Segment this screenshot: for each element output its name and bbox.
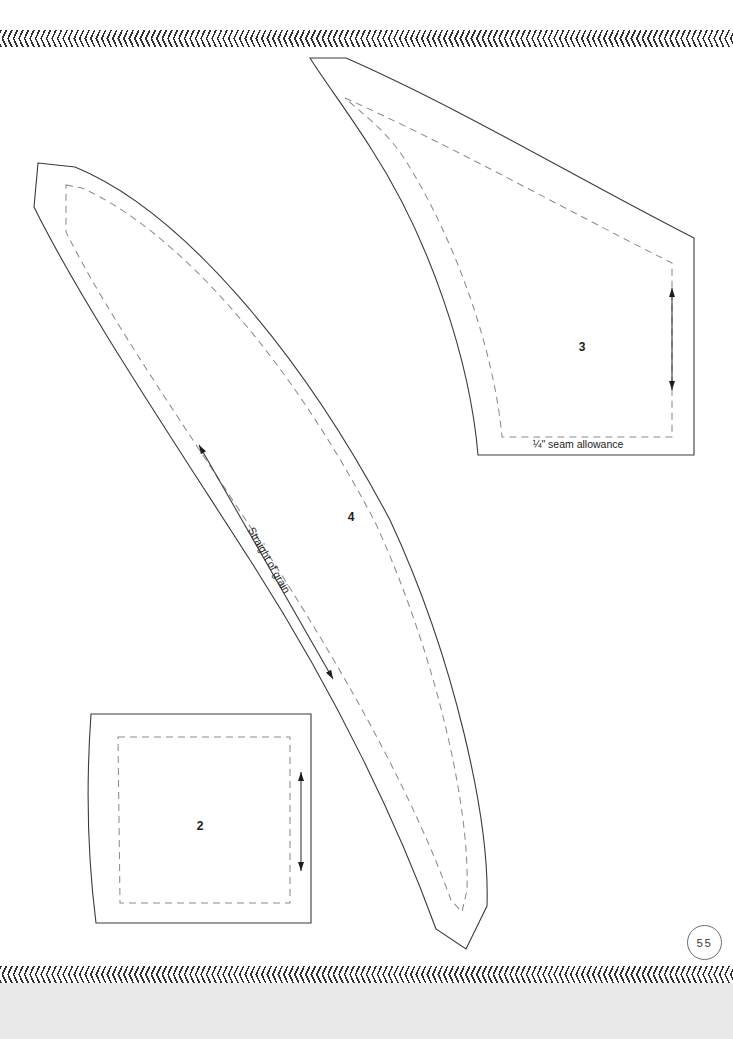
piece-4-number: 4 [348,510,355,524]
pattern-piece-3[interactable]: 3 ¼" seam allowance [310,58,694,455]
piece-3-number: 3 [579,340,586,354]
seam-allowance-label: ¼" seam allowance [533,438,624,450]
chevron-band-bottom [0,966,733,983]
piece-2-number: 2 [197,819,204,833]
page-number-badge: 55 [687,925,722,960]
pattern-piece-2[interactable]: 2 [88,714,311,923]
footer-strip: PLAID GARDEN [0,983,733,1039]
pattern-page: Straight of grain 4 3 ¼" seam allowance [0,0,733,1039]
pattern-drawing: Straight of grain 4 3 ¼" seam allowance [0,0,733,1039]
